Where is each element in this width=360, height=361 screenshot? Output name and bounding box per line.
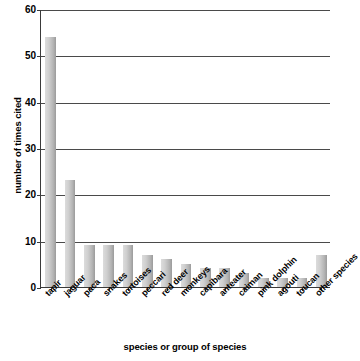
gridline xyxy=(41,149,330,150)
y-tick-label: 20 xyxy=(14,190,36,200)
y-tick-label: 10 xyxy=(14,237,36,247)
y-tick-mark xyxy=(37,242,41,243)
y-tick-mark xyxy=(37,10,41,11)
y-tick-mark xyxy=(37,103,41,104)
y-axis-tick-labels: 0102030405060 xyxy=(10,0,36,361)
y-tick-mark xyxy=(37,149,41,150)
y-tick-mark xyxy=(37,195,41,196)
y-tick-label: 60 xyxy=(14,5,36,15)
gridline xyxy=(41,103,330,104)
gridline xyxy=(41,195,330,196)
y-tick-label: 0 xyxy=(14,283,36,293)
y-tick-label: 50 xyxy=(14,51,36,61)
bar xyxy=(65,180,76,287)
gridline xyxy=(41,10,330,11)
gridline xyxy=(41,242,330,243)
y-tick-mark xyxy=(37,56,41,57)
x-axis-title: species or group of species xyxy=(40,341,330,352)
bar xyxy=(45,37,56,287)
y-tick-label: 40 xyxy=(14,98,36,108)
gridline xyxy=(41,56,330,57)
y-tick-label: 30 xyxy=(14,144,36,154)
x-axis-tick-labels: tapirjaguarpacasnakestortoisespeccarired… xyxy=(40,289,330,344)
plot-area xyxy=(40,10,330,288)
